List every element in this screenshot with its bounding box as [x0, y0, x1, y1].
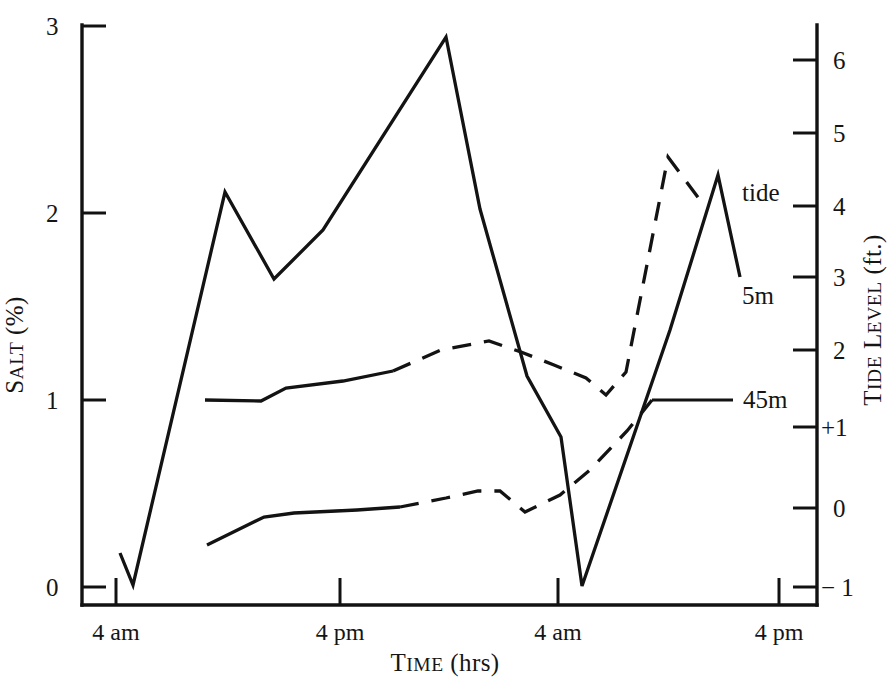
series-line-5m-dashed: [393, 157, 700, 395]
left-axis-title: SALT (%): [2, 296, 27, 394]
series-line-tide: [120, 37, 740, 586]
right-axis-title-lead2: L: [859, 333, 886, 349]
right-tick-label-5: 5: [833, 121, 846, 146]
right-axis-title-rest2: EVEL: [864, 281, 885, 333]
right-axis-title-lead: T: [859, 390, 886, 406]
bottom-axis-title-tail: (hrs): [444, 649, 500, 676]
left-axis-title-lead: S: [1, 379, 28, 393]
right-tick-label-3: 3: [833, 265, 846, 290]
left-axis-group: [82, 25, 106, 605]
right-axis-title-tail: (ft.): [859, 234, 886, 281]
bottom-tick-label-2: 4 pm: [316, 620, 365, 644]
series-label-5m: 5m: [742, 283, 774, 308]
series-label-tide: tide: [742, 180, 780, 205]
bottom-axis-title: TIME (hrs): [390, 650, 499, 675]
right-tick-label-plus1: +1: [821, 415, 848, 440]
right-axis-group: [793, 25, 817, 605]
right-tick-label-minus1: − 1: [821, 575, 854, 600]
right-axis-title: TIDE LEVEL (ft.): [860, 234, 885, 405]
left-tick-label-0: 0: [46, 575, 59, 600]
bottom-tick-label-1: 4 am: [92, 620, 139, 644]
bottom-tick-label-3: 4 am: [534, 620, 581, 644]
series-line-5m-solid: [205, 371, 393, 401]
series-label-45m: 45m: [743, 387, 787, 412]
right-tick-label-2: 2: [833, 338, 846, 363]
right-tick-label-6: 6: [833, 48, 846, 73]
left-axis-title-tail: (%): [1, 296, 28, 341]
right-tick-label-4: 4: [833, 194, 846, 219]
bottom-axis-group: [82, 578, 817, 605]
chart-plot-area: [0, 0, 890, 690]
right-tick-label-0: 0: [833, 496, 846, 521]
bottom-tick-label-4: 4 pm: [755, 620, 804, 644]
left-tick-label-2: 2: [46, 201, 59, 226]
left-tick-label-1: 1: [46, 388, 59, 413]
series-line-45m-solid: [207, 507, 400, 545]
left-axis-title-rest: ALT: [6, 342, 27, 380]
bottom-axis-title-lead: T: [390, 649, 406, 676]
right-axis-title-rest: IDE: [864, 356, 885, 390]
salt-tide-line-chart: 3 2 1 0 SALT (%) 6 5 4 3 2 +1 0 − 1 TIDE…: [0, 0, 890, 690]
right-axis-title-space: [859, 349, 886, 356]
bottom-axis-title-rest: IME: [406, 654, 444, 675]
left-tick-label-3: 3: [46, 14, 59, 39]
